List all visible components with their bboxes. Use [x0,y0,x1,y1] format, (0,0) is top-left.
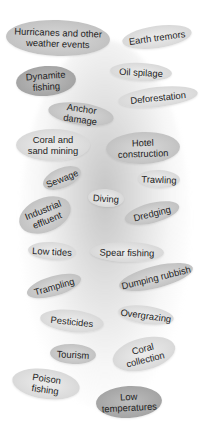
label-hurricanes: Hurricanes and other weather events [5,18,110,58]
label-coral-sand-mining: Coral and sand mining [16,129,90,161]
threats-diagram: Hurricanes and other weather events Eart… [0,0,204,434]
label-earth-tremors: Earth tremors [121,21,193,53]
